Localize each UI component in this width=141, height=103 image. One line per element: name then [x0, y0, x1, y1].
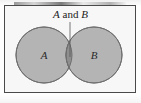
set-label-a: A — [37, 50, 51, 61]
caption-set-a: A — [53, 8, 60, 20]
caption-conjunction: and — [63, 8, 79, 20]
caption-set-b: B — [81, 8, 88, 20]
venn-diagram-figure: A and B A B — [0, 0, 141, 103]
set-label-b: B — [87, 50, 101, 61]
intersection-caption: A and B — [0, 8, 141, 21]
